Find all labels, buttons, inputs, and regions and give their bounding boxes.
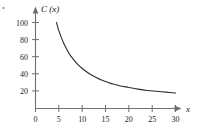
x-tick-label-5: 5 <box>57 115 61 124</box>
y-tick-label-40: 40 <box>20 70 28 79</box>
y-tick-label-60: 60 <box>20 53 28 62</box>
x-tick-label-10: 10 <box>78 115 86 124</box>
y-tick-label-100: 100 <box>16 19 28 28</box>
figure-container: 100 80 60 40 20 0 5 10 15 20 25 30 C (x)… <box>0 0 200 130</box>
x-tick-label-15: 15 <box>102 115 110 124</box>
x-tick-label-20: 20 <box>125 115 133 124</box>
cost-function-chart: 100 80 60 40 20 0 5 10 15 20 25 30 C (x)… <box>0 0 200 130</box>
y-axis-arrow-icon <box>33 7 39 14</box>
figure-corner-mark <box>2 7 4 9</box>
x-tick-label-25: 25 <box>148 115 156 124</box>
x-axis-title: x <box>185 104 190 114</box>
cost-curve <box>57 23 176 94</box>
y-tick-label-80: 80 <box>20 36 28 45</box>
x-tick-label-0: 0 <box>34 115 38 124</box>
y-axis-title: C (x) <box>41 4 59 14</box>
x-tick-label-30: 30 <box>172 115 180 124</box>
y-tick-label-20: 20 <box>20 87 28 96</box>
